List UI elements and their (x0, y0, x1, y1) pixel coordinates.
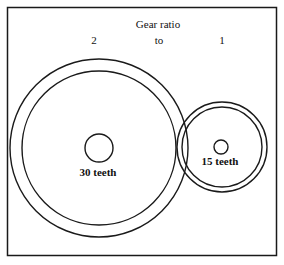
frame-border (8, 8, 277, 256)
small-gear-label: 15 teeth (202, 155, 239, 167)
gear-diagram (0, 0, 284, 265)
large-gear (10, 59, 188, 237)
large-gear-inner-circle (22, 71, 176, 225)
ratio-left-value: 2 (91, 34, 97, 46)
large-gear-label: 30 teeth (80, 166, 117, 178)
diagram-title: Gear ratio (136, 18, 180, 30)
ratio-separator: to (155, 34, 164, 46)
small-gear-hub (214, 140, 228, 154)
small-gear-inner-circle (182, 107, 262, 187)
large-gear-outer-circle (10, 59, 188, 237)
ratio-right-value: 1 (219, 34, 225, 46)
large-gear-hub (85, 134, 113, 162)
small-gear-outer-circle (177, 102, 267, 192)
small-gear (177, 102, 267, 192)
